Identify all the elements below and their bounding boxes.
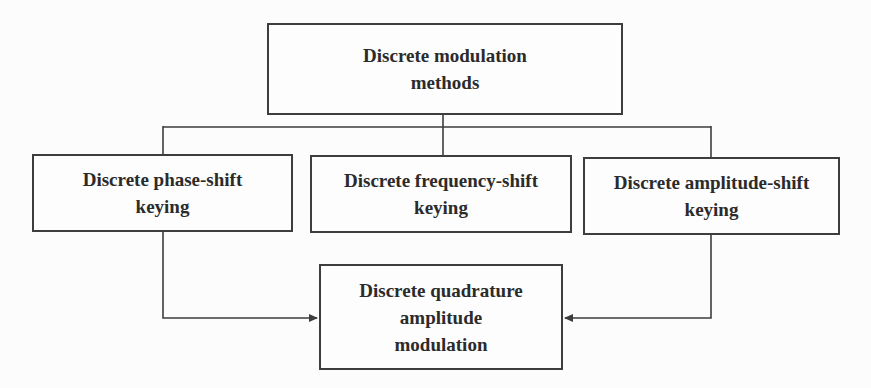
- node-discrete-quadrature-amplitude-modulation: Discrete quadrature amplitude modulation: [319, 264, 563, 370]
- node-label-line: keying: [136, 193, 190, 220]
- node-label-line: keying: [685, 196, 739, 223]
- connector-ask-to-qam-arrow: [565, 235, 711, 318]
- node-discrete-modulation-methods: Discrete modulation methods: [267, 23, 623, 115]
- node-discrete-amplitude-shift-keying: Discrete amplitude-shift keying: [583, 157, 840, 235]
- node-discrete-frequency-shift-keying: Discrete frequency-shift keying: [310, 155, 572, 233]
- node-label-line: Discrete modulation: [363, 42, 527, 69]
- node-label-line: Discrete quadrature: [359, 277, 522, 304]
- node-label-line: methods: [411, 69, 480, 96]
- node-label-line: modulation: [395, 331, 488, 358]
- connector-psk-to-qam-arrow: [163, 232, 317, 318]
- node-discrete-phase-shift-keying: Discrete phase-shift keying: [32, 154, 293, 232]
- node-label-line: Discrete amplitude-shift: [614, 169, 809, 196]
- diagram-canvas: Discrete modulation methods Discrete pha…: [0, 0, 871, 388]
- node-label-line: Discrete phase-shift: [83, 166, 243, 193]
- node-label-line: keying: [414, 194, 468, 221]
- node-label-line: amplitude: [400, 304, 482, 331]
- node-label-line: Discrete frequency-shift: [344, 167, 538, 194]
